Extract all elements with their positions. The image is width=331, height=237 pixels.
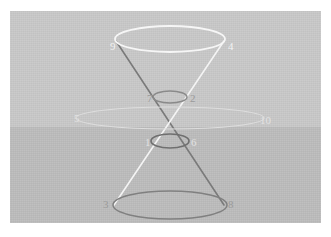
- horizontal-plane-section: [76, 107, 264, 129]
- photographic-plate: 9 4 7 2 5 10 1 6 3 8: [10, 11, 321, 223]
- double-cone-figure: [10, 11, 321, 223]
- figure-canvas: 9 4 7 2 5 10 1 6 3 8: [0, 0, 331, 237]
- top-circle-section: [115, 26, 225, 52]
- bottom-circle-section: [113, 191, 227, 219]
- upper-ellipse-section: [153, 91, 187, 103]
